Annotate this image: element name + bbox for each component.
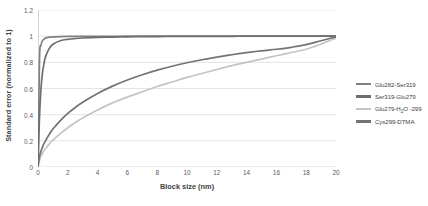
x-tick-label: 14: [243, 169, 250, 176]
y-tick-label: 0.8: [24, 59, 33, 66]
x-axis-title: Block size (nm): [38, 182, 336, 191]
y-axis-title: Standard error (normalized to 1): [0, 0, 16, 170]
y-tick-label: 1.2: [24, 7, 33, 14]
x-axis-tick-labels: 02468101214161820: [38, 169, 336, 181]
legend-color-swatch: [356, 108, 371, 111]
y-axis-tick-labels: 00.20.40.60.811.2: [16, 10, 36, 167]
x-tick-label: 12: [213, 169, 220, 176]
y-tick-label: 1: [29, 33, 33, 40]
x-tick-label: 10: [183, 169, 190, 176]
x-tick-label: 4: [96, 169, 100, 176]
legend-item-label: Glu279-H2O -299: [375, 105, 422, 112]
data-curves: [38, 10, 336, 167]
plot-area: [38, 10, 336, 167]
legend-item-label: Glu282-Ser319: [375, 81, 416, 88]
data-curve: [38, 37, 336, 167]
y-tick-label: 0: [29, 164, 33, 171]
y-tick-label: 0.4: [24, 111, 33, 118]
legend-item-label: Cys299-DTMA: [375, 118, 414, 125]
x-tick-label: 18: [303, 169, 310, 176]
y-axis-title-text: Standard error (normalized to 1): [4, 29, 13, 142]
legend-color-swatch: [356, 83, 371, 86]
y-tick-label: 0.6: [24, 85, 33, 92]
x-tick-label: 2: [66, 169, 70, 176]
chart-container: Standard error (normalized to 1) 00.20.4…: [0, 0, 428, 206]
legend-color-swatch: [356, 120, 371, 123]
x-tick-label: 8: [155, 169, 159, 176]
x-tick-label: 16: [273, 169, 280, 176]
legend-item[interactable]: Glu282-Ser319: [356, 78, 428, 90]
y-tick-label: 0.2: [24, 137, 33, 144]
legend-item[interactable]: Glu279-H2O -299: [356, 103, 428, 115]
legend-color-swatch: [356, 95, 371, 98]
x-tick-label: 0: [36, 169, 40, 176]
x-tick-label: 6: [126, 169, 130, 176]
legend-item[interactable]: Ser319-Glu279: [356, 90, 428, 102]
x-tick-label: 20: [332, 169, 339, 176]
legend-item[interactable]: Cys299-DTMA: [356, 115, 428, 127]
legend-item-label: Ser319-Glu279: [375, 93, 416, 100]
chart-legend: Glu282-Ser319Ser319-Glu279Glu279-H2O -29…: [356, 78, 428, 128]
legend-label-subscript: 2: [401, 109, 404, 114]
